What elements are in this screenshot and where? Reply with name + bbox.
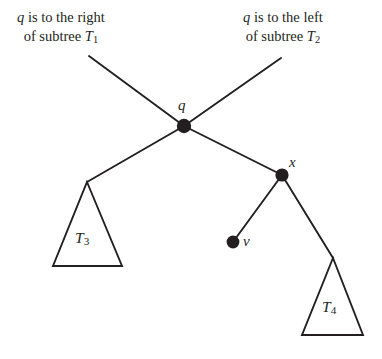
- subtree-label-t4-base: T: [322, 298, 331, 315]
- tree-diagram-figure: q is to the right of subtree T1 q is to …: [0, 0, 382, 359]
- node-label-x: x: [289, 154, 296, 171]
- subtree-triangle-t4: [302, 258, 363, 335]
- edge-q-to-subtree-t3: [87, 126, 184, 182]
- callout-right-subtree-symbol: T2: [307, 28, 320, 44]
- callout-right-line2: of subtree T2: [243, 27, 323, 47]
- node-dot-q: [177, 119, 191, 133]
- subtree-label-t4: T4: [322, 298, 336, 316]
- callout-left-subtree-subscript: 1: [93, 34, 98, 45]
- subtree-label-t3-subscript: 3: [84, 235, 90, 247]
- callout-left-line2-text: of subtree: [24, 28, 85, 44]
- edge-x-to-subtree-t4: [282, 175, 333, 258]
- callout-right-subtree-subscript: 2: [315, 34, 320, 45]
- callout-right-line1: q is to the left: [243, 8, 323, 27]
- node-label-v: v: [243, 233, 250, 250]
- node-dot-group: [177, 119, 289, 249]
- callout-left-line2: of subtree T1: [17, 27, 105, 47]
- subtree-label-t3-base: T: [75, 229, 84, 246]
- node-dot-x: [275, 168, 288, 181]
- callout-right-line2-text: of subtree: [246, 28, 307, 44]
- callout-left-line1-text: is to the right: [24, 9, 105, 25]
- callout-left-subtree-symbol: T1: [85, 28, 98, 44]
- edge-x-to-v: [233, 175, 282, 242]
- node-dot-v: [227, 236, 240, 249]
- callout-right-line1-text: is to the left: [250, 9, 323, 25]
- subtree-label-t3: T3: [75, 229, 89, 247]
- edge-callout-right-to-q: [184, 58, 281, 126]
- callout-left: q is to the right of subtree T1: [17, 8, 105, 46]
- subtree-label-t4-subscript: 4: [331, 304, 337, 316]
- callout-left-line1: q is to the right: [17, 8, 105, 27]
- callout-right: q is to the left of subtree T2: [243, 8, 323, 46]
- edge-q-to-x: [184, 126, 282, 175]
- edge-callout-left-to-q: [89, 56, 184, 126]
- node-label-q: q: [178, 97, 186, 114]
- subtree-triangle-t3: [53, 182, 122, 266]
- edge-group: [87, 56, 333, 258]
- subtree-triangle-group: [53, 182, 363, 335]
